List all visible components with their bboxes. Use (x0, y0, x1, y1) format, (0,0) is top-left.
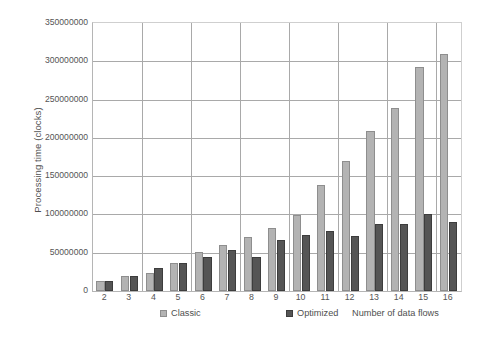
y-axis-tick-label: 100000000 (2, 208, 88, 218)
y-axis-tick-label: 200000000 (2, 132, 88, 142)
legend-entry-classic[interactable]: Classic (160, 308, 201, 318)
bar-optimized-15 (424, 214, 432, 291)
y-axis-tick-label: 0 (2, 285, 88, 295)
legend-entry-optimized[interactable]: Optimized (286, 308, 338, 318)
bar-optimized-6 (203, 257, 211, 291)
bar-optimized-11 (326, 231, 334, 291)
x-axis-tick-label: 5 (175, 292, 180, 302)
x-axis-tick-label: 7 (224, 292, 229, 302)
x-axis-tick-label: 9 (274, 292, 279, 302)
bar-classic-16 (440, 54, 448, 291)
bar-optimized-2 (105, 281, 113, 291)
bar-classic-9 (268, 228, 276, 291)
bar-classic-5 (170, 263, 178, 291)
bar-classic-2 (96, 281, 104, 291)
x-axis-tick-label: 11 (320, 292, 329, 302)
x-axis-tick-label: 4 (151, 292, 156, 302)
x-axis-tick-label: 13 (369, 292, 379, 302)
x-axis-title: Number of data flows (352, 308, 439, 318)
bar-classic-7 (219, 245, 227, 291)
bar-classic-3 (121, 276, 129, 291)
bar-optimized-12 (351, 236, 359, 291)
bars-layer (93, 23, 461, 291)
x-axis-tick-label: 14 (394, 292, 404, 302)
y-axis-tick-labels: 0500000001000000001500000002000000002500… (0, 0, 88, 339)
bar-classic-6 (195, 252, 203, 291)
x-axis-tick-label: 16 (443, 292, 453, 302)
legend-label: Classic (171, 308, 201, 318)
y-axis-tick-label: 250000000 (2, 94, 88, 104)
bar-classic-13 (366, 131, 374, 291)
bar-optimized-13 (375, 224, 383, 291)
y-axis-tick-label: 150000000 (2, 170, 88, 180)
bar-classic-4 (146, 273, 154, 291)
x-axis-tick-label: 6 (200, 292, 205, 302)
bar-optimized-14 (400, 224, 408, 291)
bar-optimized-5 (179, 263, 187, 291)
bar-classic-12 (342, 161, 350, 291)
x-axis-tick-label: 3 (126, 292, 131, 302)
x-axis-tick-label: 12 (345, 292, 355, 302)
bar-optimized-8 (252, 257, 260, 291)
bar-optimized-7 (228, 250, 236, 291)
bar-optimized-9 (277, 240, 285, 291)
optimized-swatch-icon (286, 310, 293, 317)
x-axis-tick-label: 10 (296, 292, 306, 302)
bar-chart: Processing time (clocks) 050000000100000… (0, 0, 480, 339)
classic-swatch-icon (160, 310, 167, 317)
y-axis-tick-label: 50000000 (2, 247, 88, 257)
bar-optimized-4 (154, 268, 162, 291)
bar-optimized-3 (130, 276, 138, 291)
bar-optimized-10 (302, 235, 310, 291)
legend-label: Optimized (297, 308, 338, 318)
bar-classic-14 (391, 108, 399, 291)
x-axis-tick-label: 8 (249, 292, 254, 302)
bar-classic-8 (244, 237, 252, 291)
y-axis-tick-label: 350000000 (2, 17, 88, 27)
bar-classic-10 (293, 215, 301, 291)
plot-area (92, 22, 462, 292)
x-axis-tick-labels: 2345678910111213141516 (92, 292, 462, 308)
y-axis-tick-label: 300000000 (2, 55, 88, 65)
bar-classic-11 (317, 185, 325, 291)
x-axis-tick-label: 15 (418, 292, 428, 302)
x-axis-tick-label: 2 (102, 292, 107, 302)
bar-classic-15 (415, 67, 423, 291)
bar-optimized-16 (449, 222, 457, 291)
